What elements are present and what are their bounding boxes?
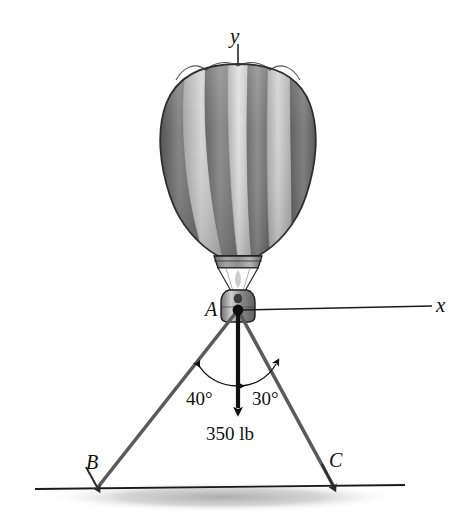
y-axis-label: y xyxy=(230,26,239,47)
figure-canvas xyxy=(0,0,470,526)
angle-label-right: 30° xyxy=(252,389,279,408)
node-dot-a xyxy=(233,305,244,316)
balloon-envelope xyxy=(150,55,330,270)
force-magnitude-label: 350 lb xyxy=(206,424,254,443)
x-axis-label: x xyxy=(436,295,445,316)
balloon-statics-figure: y x A B C 40° 30° 350 lb xyxy=(0,0,470,526)
cable-a-b xyxy=(98,310,238,487)
angle-arc-left xyxy=(197,362,238,386)
point-label-b: B xyxy=(86,452,98,472)
point-label-a: A xyxy=(205,299,217,319)
balloon-throat-rigging xyxy=(218,268,258,291)
x-axis-line xyxy=(238,306,432,310)
point-label-c: C xyxy=(329,450,342,470)
angle-label-left: 40° xyxy=(186,389,213,408)
balloon-skirt xyxy=(214,256,262,268)
